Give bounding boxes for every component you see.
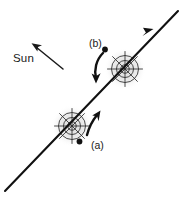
sun-label: Sun	[13, 53, 34, 65]
marker-dot-b	[102, 47, 108, 53]
label-b: (b)	[89, 38, 102, 49]
nucleus-upper	[104, 48, 146, 90]
trajectory-arrowhead	[143, 28, 154, 36]
nucleus-upper-spokes	[108, 52, 143, 87]
sun-direction-arrow	[32, 43, 64, 69]
label-a: (a)	[91, 140, 104, 151]
nucleus-lower	[51, 105, 93, 147]
figure-canvas: Sun (b) (a)	[0, 0, 184, 197]
marker-dot-a	[77, 139, 83, 145]
rotation-arrow-b	[92, 53, 103, 84]
diagram-svg	[0, 0, 184, 197]
nucleus-lower-spokes	[55, 109, 90, 144]
